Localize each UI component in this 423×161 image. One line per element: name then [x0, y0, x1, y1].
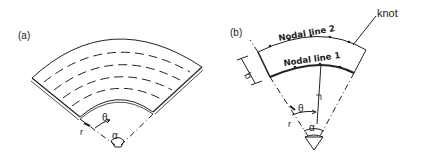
- left-edge-b: [258, 52, 270, 77]
- knot-label: knot: [377, 7, 398, 19]
- nodal-line-2-label: Nodal line 2: [278, 23, 336, 43]
- right-edge-a: [153, 67, 202, 112]
- left-edge-a: [32, 78, 80, 117]
- figure-a-label: (a): [18, 30, 30, 41]
- r-label-a: r: [80, 127, 83, 137]
- theta-label-a: θ: [102, 112, 108, 123]
- nodal-line-1-arc: [270, 65, 354, 77]
- center-radius-b: [317, 64, 321, 124]
- r-label-b: r: [288, 119, 291, 129]
- theta-label-b: θ: [298, 103, 304, 114]
- diagram-canvas: (a) θ α r (b) Nodal line 2 Nodal line 1 …: [0, 0, 423, 161]
- alpha-label-a: α: [112, 130, 118, 141]
- figure-b-label: (b): [230, 27, 242, 38]
- alpha-label-b: α: [309, 122, 315, 133]
- theta-arrow-b: [292, 111, 316, 115]
- knot-leader-line: [353, 16, 376, 45]
- right-edge-b: [354, 50, 366, 73]
- nodal-line-2-arc: [258, 36, 366, 52]
- apex-triangle-b: [305, 137, 323, 150]
